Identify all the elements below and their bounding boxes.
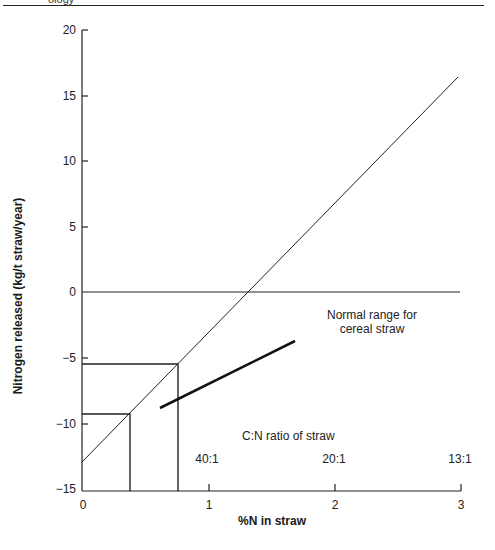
y-tick-label: 0 xyxy=(69,285,76,299)
cn-ratio-title: C:N ratio of straw xyxy=(242,429,335,443)
y-axis xyxy=(82,30,88,491)
cn-tick-label: 13:1 xyxy=(448,452,471,466)
y-tick-label: 20 xyxy=(63,23,76,37)
x-tick-label: 2 xyxy=(332,498,339,512)
x-tick-label: 3 xyxy=(458,498,465,512)
y-tick-label: −15 xyxy=(56,482,76,496)
y-tick-label: −5 xyxy=(62,351,76,365)
y-axis-label: Nitrogen released (kg/t straw/year) xyxy=(11,198,25,395)
normal-range-annotation: Normal range for cereal straw xyxy=(307,308,437,336)
reference-line-0375 xyxy=(82,414,130,491)
annotation-line-1: Normal range for xyxy=(307,308,437,322)
y-tick-label: −10 xyxy=(56,417,76,431)
chart-plot xyxy=(0,0,495,550)
y-tick-label: 15 xyxy=(63,89,76,103)
x-axis xyxy=(82,484,461,491)
annotation-line-2: cereal straw xyxy=(307,322,437,336)
x-tick-label: 1 xyxy=(206,498,213,512)
y-tick-label: 5 xyxy=(69,220,76,234)
cn-tick-label: 20:1 xyxy=(322,452,345,466)
cn-tick-label: 40:1 xyxy=(195,452,218,466)
x-tick-label: 0 xyxy=(80,498,87,512)
y-tick-label: 10 xyxy=(63,154,76,168)
x-axis-label: %N in straw xyxy=(238,514,306,528)
normal-range-segment xyxy=(160,341,295,408)
nitrogen-release-line xyxy=(82,77,458,462)
